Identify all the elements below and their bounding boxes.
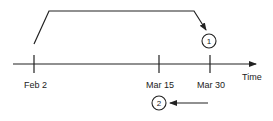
tick-label-mar-30: Mar 30 — [197, 80, 225, 90]
tick-label-mar-15: Mar 15 — [146, 80, 174, 90]
marker-1: 1 — [202, 34, 216, 48]
marker-1-number: 1 — [207, 37, 212, 46]
timeline-diagram: Time Feb 2 Mar 15 Mar 30 1 2 — [0, 0, 273, 121]
span-arrow-path — [34, 11, 206, 44]
tick-label-feb-2: Feb 2 — [24, 80, 47, 90]
time-axis-label: Time — [242, 72, 262, 82]
marker-2: 2 — [152, 96, 166, 110]
marker-2-number: 2 — [157, 99, 162, 108]
